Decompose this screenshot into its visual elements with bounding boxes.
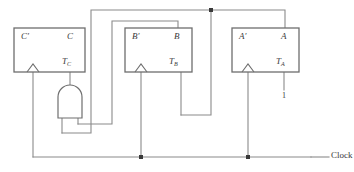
flipflop-b-output-label: B — [174, 32, 180, 41]
flipflop-boxes — [14, 28, 299, 72]
constant-one-label: 1 — [282, 92, 286, 100]
junction-dot-top-bus — [209, 8, 213, 12]
flipflop-b-output-inverted-label: B′ — [132, 32, 139, 41]
junction-dot-clock-b — [139, 155, 143, 159]
junction-dot-clock-a — [246, 155, 250, 159]
schematic-canvas — [0, 0, 354, 172]
flipflop-c-output-label: C — [67, 32, 73, 41]
circuit-diagram: C′ C TC B′ B TB A′ A TA 1 Clock — [0, 0, 354, 172]
clock-label: Clock — [331, 151, 353, 160]
flipflop-c-output-inverted-label: C′ — [21, 32, 29, 41]
flipflop-c-input-label: TC — [62, 57, 71, 67]
wire-a-output-to-top-bus — [211, 10, 285, 28]
and-gate-icon — [58, 85, 82, 118]
flipflop-a-input-label: TA — [276, 57, 285, 67]
flipflop-a-output-label: A — [281, 32, 287, 41]
flipflop-a-output-inverted-label: A′ — [239, 32, 246, 41]
flipflop-b-input-label: TB — [169, 57, 178, 67]
